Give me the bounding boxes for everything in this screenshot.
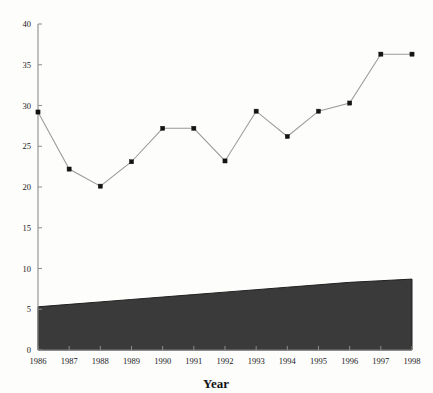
x-tick-label: 1991 <box>185 356 202 366</box>
data-point-marker <box>98 184 102 188</box>
x-tick-label: 1990 <box>154 356 171 366</box>
x-tick-label: 1987 <box>61 356 78 366</box>
data-point-marker <box>379 52 383 56</box>
x-tick-label: 1988 <box>92 356 109 366</box>
y-tick-label: 25 <box>23 141 32 151</box>
data-point-marker <box>192 126 196 130</box>
y-tick-label: 0 <box>27 345 31 355</box>
x-tick-label: 1994 <box>279 356 297 366</box>
x-tick-label: 1996 <box>341 356 358 366</box>
x-tick-label: 1993 <box>248 356 265 366</box>
x-tick-label: 1992 <box>217 356 234 366</box>
data-point-marker <box>161 126 165 130</box>
data-point-marker <box>36 110 40 114</box>
y-tick-label: 5 <box>27 304 31 314</box>
chart-figure: 0510152025303540 19861987198819891990199… <box>0 0 433 393</box>
y-tick-label: 20 <box>23 182 32 192</box>
y-tick-label: 10 <box>23 264 32 274</box>
x-tick-label: 1989 <box>123 356 140 366</box>
y-tick-label: 35 <box>23 60 32 70</box>
data-point-marker <box>254 109 258 113</box>
data-point-marker <box>316 109 320 113</box>
x-axis-title: Year <box>203 376 229 391</box>
y-tick-label: 30 <box>23 101 32 111</box>
data-point-marker <box>348 101 352 105</box>
data-point-marker <box>129 160 133 164</box>
x-tick-label: 1997 <box>372 356 389 366</box>
line-chart: 0510152025303540 19861987198819891990199… <box>0 0 433 393</box>
x-tick-label: 1998 <box>404 356 421 366</box>
y-tick-label: 15 <box>23 223 32 233</box>
data-point-marker <box>67 167 71 171</box>
data-point-marker <box>285 134 289 138</box>
x-tick-label: 1995 <box>310 356 327 366</box>
data-point-marker <box>410 52 414 56</box>
data-point-marker <box>223 159 227 163</box>
y-tick-label: 40 <box>23 19 32 29</box>
x-tick-label: 1986 <box>30 356 47 366</box>
